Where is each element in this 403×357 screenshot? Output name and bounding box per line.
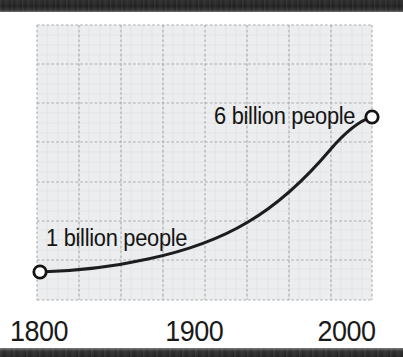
scan-edge-band-bottom <box>0 348 403 357</box>
annotation-1-billion: 1 billion people <box>46 226 187 250</box>
data-point-marker-end <box>366 111 378 123</box>
scan-edge-band-top <box>0 0 403 12</box>
population-growth-chart: 6 billion people 1 billion people 1800 1… <box>0 12 403 348</box>
x-axis-tick-label-1800: 1800 <box>10 316 68 346</box>
x-axis-tick-label-2000: 2000 <box>317 316 375 346</box>
annotation-6-billion: 6 billion people <box>214 104 355 128</box>
x-axis-tick-label-1900: 1900 <box>165 316 223 346</box>
data-point-marker-start <box>34 266 46 278</box>
chart-canvas <box>0 12 403 348</box>
figure-page: 6 billion people 1 billion people 1800 1… <box>0 0 403 357</box>
plot-background <box>37 25 372 300</box>
